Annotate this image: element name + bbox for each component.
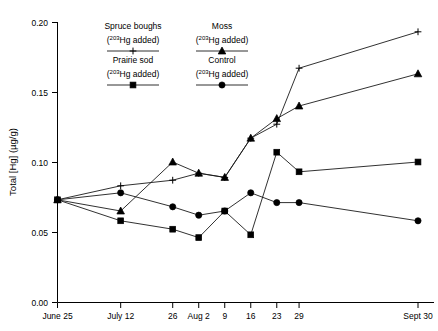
data-point-square	[296, 169, 302, 175]
series-markers-circle	[54, 190, 421, 224]
legend-entry-title: Moss	[212, 21, 232, 31]
series-markers-plus	[54, 28, 421, 203]
series-markers-triangle	[54, 70, 422, 214]
legend-marker-plus	[130, 48, 137, 55]
x-tick-label: 29	[294, 311, 304, 321]
legend-entry: Spruce boughs(203Hg added)	[104, 21, 161, 54]
y-tick-label: 0.00	[31, 298, 48, 308]
x-tick-label: Sept 30	[403, 311, 433, 321]
data-point-circle	[196, 212, 202, 218]
series-square	[58, 152, 419, 237]
x-axis-ticks	[58, 303, 419, 309]
series-line	[58, 32, 419, 200]
legend-entry-title: Control	[208, 55, 236, 65]
data-point-plus	[296, 65, 303, 72]
x-tick-label: 23	[272, 311, 282, 321]
series-plus	[58, 32, 419, 200]
data-point-plus	[169, 177, 176, 184]
data-point-circle	[296, 200, 302, 206]
legend-entry-title: Spruce boughs	[104, 21, 161, 31]
y-tick-label: 0.05	[31, 228, 48, 238]
x-tick-label: Aug 2	[188, 311, 210, 321]
data-point-square	[196, 235, 202, 241]
data-point-square	[248, 232, 254, 238]
data-point-circle	[274, 200, 280, 206]
x-tick-label: 16	[246, 311, 256, 321]
data-point-plus	[117, 182, 124, 189]
data-point-circle	[118, 190, 124, 196]
data-point-square	[274, 149, 280, 155]
data-series-layer	[54, 28, 422, 240]
x-axis-tick-labels: June 25July 1226Aug 29162329Sept 30	[42, 311, 433, 321]
data-point-circle	[415, 218, 421, 224]
legend-entry-sublabel: (203Hg added)	[107, 69, 160, 79]
series-line	[58, 152, 419, 237]
series-line	[58, 193, 419, 221]
chart-figure: 0.20 0.15 0.10 0.05 0.00 Total [Hg] (µg/…	[0, 0, 438, 331]
y-tick-label: 0.20	[31, 18, 48, 28]
y-tick-label: 0.15	[31, 88, 48, 98]
series-line	[58, 74, 419, 211]
legend-marker-square	[130, 82, 136, 88]
series-markers-square	[55, 149, 421, 240]
series-triangle	[58, 74, 419, 211]
y-axis-ticks: 0.20 0.15 0.10 0.05 0.00	[31, 18, 57, 308]
data-point-triangle	[414, 70, 422, 77]
data-point-square	[170, 226, 176, 232]
data-point-circle	[222, 208, 228, 214]
x-tick-label: June 25	[42, 311, 73, 321]
data-point-square	[118, 218, 124, 224]
y-tick-label: 0.10	[31, 158, 48, 168]
data-point-triangle	[169, 158, 177, 165]
chart-legend: Spruce boughs(203Hg added)Moss(203Hg add…	[104, 21, 248, 88]
legend-entry: Moss(203Hg added)	[196, 21, 249, 54]
legend-entry-sublabel: (203Hg added)	[196, 35, 249, 45]
legend-entry-sublabel: (203Hg added)	[107, 35, 160, 45]
x-tick-label: 26	[168, 311, 178, 321]
x-tick-label: July 12	[107, 311, 134, 321]
series-circle	[58, 193, 419, 221]
x-tick-label: 9	[222, 311, 227, 321]
legend-marker-triangle	[218, 47, 226, 54]
legend-entry-sublabel: (203Hg added)	[196, 69, 249, 79]
data-point-plus	[415, 28, 422, 35]
data-point-circle	[248, 190, 254, 196]
legend-entry: Control(203Hg added)	[196, 55, 249, 88]
data-point-square	[415, 159, 421, 165]
legend-entry: Prairie sod(203Hg added)	[107, 55, 160, 88]
legend-marker-circle	[219, 82, 225, 88]
legend-entry-title: Prairie sod	[113, 55, 154, 65]
data-point-circle	[54, 197, 60, 203]
hg-timeseries-line-chart: 0.20 0.15 0.10 0.05 0.00 Total [Hg] (µg/…	[0, 0, 438, 331]
y-axis-title: Total [Hg] (µg/g)	[7, 128, 18, 196]
data-point-circle	[170, 204, 176, 210]
